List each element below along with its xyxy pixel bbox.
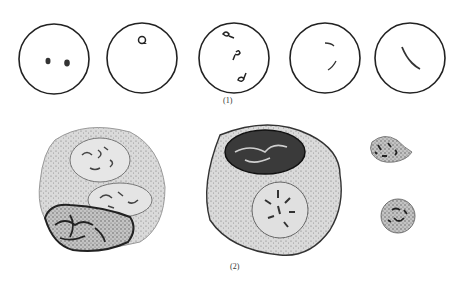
panel2-label: (2) bbox=[230, 262, 239, 271]
panel2-cell-small-lower bbox=[381, 199, 415, 233]
panel1-cell-2 bbox=[107, 23, 177, 93]
panel1-cell-4 bbox=[290, 23, 360, 93]
panel2-cell-large-middle bbox=[207, 125, 342, 255]
panel1-cell-3 bbox=[199, 23, 269, 93]
dot-icon bbox=[46, 58, 51, 64]
figure-canvas bbox=[0, 0, 460, 285]
panel2-cell-small-upper bbox=[371, 136, 413, 162]
dot-icon bbox=[64, 60, 70, 67]
panel1-cell-5 bbox=[375, 23, 445, 93]
panel1-cell-1 bbox=[19, 24, 89, 94]
panel2-cell-large-left bbox=[39, 128, 165, 252]
panel1-label: (1) bbox=[223, 96, 232, 105]
